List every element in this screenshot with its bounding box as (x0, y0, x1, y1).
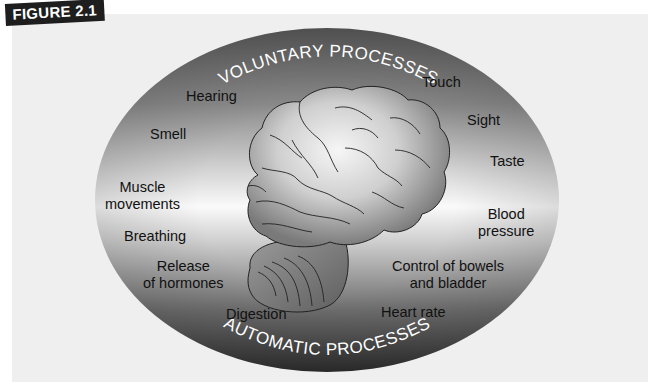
label-hearing: Hearing (186, 88, 237, 105)
label-sight: Sight (467, 112, 500, 129)
cerebellum (248, 240, 348, 312)
brain-process-diagram: VOLUNTARY PROCESSES AUTOMATIC PROCESSES (0, 0, 652, 389)
label-taste: Taste (490, 153, 525, 170)
label-breathing: Breathing (124, 228, 186, 245)
label-digestion: Digestion (226, 306, 286, 323)
label-heart-rate: Heart rate (381, 304, 445, 321)
label-muscle-movements: Muscle movements (105, 179, 180, 213)
label-release-of-hormones: Release of hormones (143, 258, 224, 292)
label-control-of-bowels-and-bladder: Control of bowels and bladder (392, 258, 504, 292)
label-smell: Smell (150, 126, 186, 143)
label-blood-pressure: Blood pressure (478, 206, 534, 240)
label-touch: Touch (422, 74, 461, 91)
